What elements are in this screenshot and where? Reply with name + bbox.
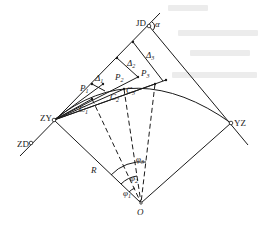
radius-dashed-2	[124, 89, 141, 203]
tangent-line-zy-jd	[20, 13, 160, 156]
label-p1: P1	[79, 83, 89, 94]
label-phi2: φ2	[130, 173, 138, 184]
label-zy: ZY	[40, 113, 52, 123]
label-phi1: φ1	[123, 188, 131, 199]
label-phi3: φ3	[136, 154, 144, 165]
label-delta3: Δ3	[145, 50, 154, 61]
label-c3: C3	[126, 85, 135, 96]
label-o: O	[137, 207, 144, 217]
radius-yz-o	[141, 123, 231, 203]
label-delta1: Δ1	[94, 73, 103, 84]
label-c2: C2	[110, 92, 119, 103]
label-yz: YZ	[234, 118, 246, 128]
label-alpha: α	[155, 19, 160, 29]
point-o	[140, 202, 142, 204]
label-jd: JD	[136, 18, 147, 28]
radius-dashed-1	[92, 99, 141, 203]
point-zy	[52, 118, 56, 122]
label-p3: P3	[140, 68, 150, 79]
label-delta2: Δ2	[126, 58, 135, 69]
label-radius: R	[90, 165, 97, 175]
label-p2: P2	[114, 72, 124, 83]
radius-dashed-3	[141, 84, 155, 203]
angle-arc-phi1	[129, 188, 135, 192]
point-zd	[29, 141, 33, 145]
curve-layout-diagram: JD α ZY ZD YZ O R Δ3 Δ2 Δ1 P1 P2 P3 C1 C…	[0, 0, 258, 226]
point-jd	[147, 24, 151, 28]
point-yz	[229, 121, 233, 125]
label-zd: ZD	[17, 139, 29, 149]
